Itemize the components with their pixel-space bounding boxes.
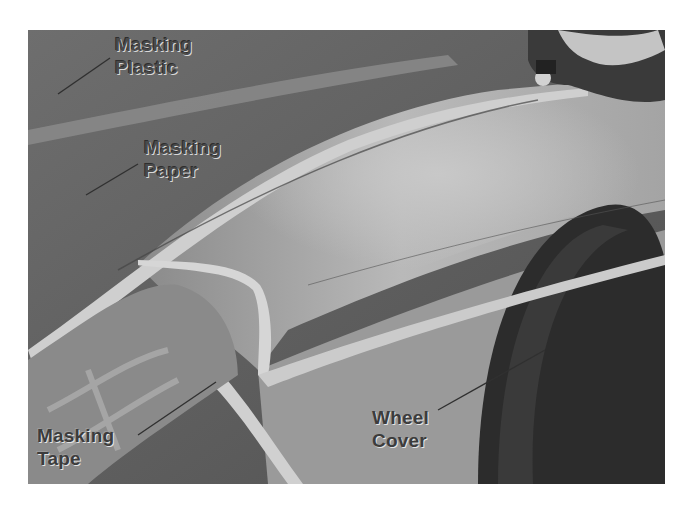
- label-wheel-cover: Wheel Cover: [372, 406, 429, 452]
- label-masking-paper: Masking Paper: [144, 136, 221, 182]
- label-line: Cover: [372, 429, 429, 452]
- masking-photo: [28, 30, 665, 484]
- label-line: Paper: [144, 159, 221, 182]
- label-masking-tape: Masking Tape: [37, 424, 114, 470]
- label-line: Masking: [144, 136, 221, 159]
- label-line: Masking: [37, 424, 114, 447]
- label-line: Wheel: [372, 406, 429, 429]
- label-line: Tape: [37, 447, 114, 470]
- label-masking-plastic: Masking Plastic: [115, 33, 192, 79]
- photo-illustration: [28, 30, 665, 484]
- label-line: Plastic: [115, 56, 192, 79]
- label-line: Masking: [115, 33, 192, 56]
